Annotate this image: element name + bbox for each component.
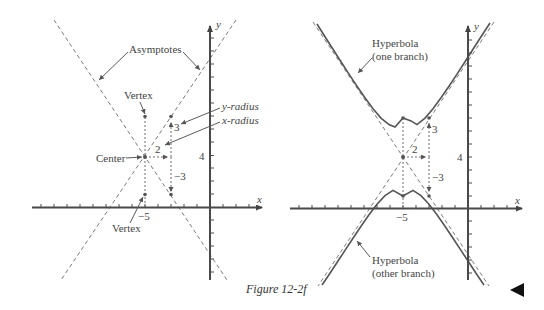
x-tick-label: −5 xyxy=(396,211,408,223)
vertex-top-point xyxy=(401,116,405,120)
right-panel: y x −5 4 Hyperbola (one branch) Hyperbol… xyxy=(290,20,522,286)
corner-point-bottom xyxy=(427,194,431,198)
asymptotes-leader-right xyxy=(183,52,200,70)
corner-point-top xyxy=(169,115,173,119)
value-down-label: −3 xyxy=(432,171,444,183)
value-up-label: 3 xyxy=(432,123,438,135)
y-axis-label: y xyxy=(473,20,479,32)
other-branch-label-line1: Hyperbola xyxy=(372,254,419,266)
vertex-top-point xyxy=(143,115,147,119)
one-branch-label-line1: Hyperbola xyxy=(372,37,419,49)
y-tick-label: 4 xyxy=(199,150,205,162)
value-down-label: −3 xyxy=(174,170,186,182)
left-panel: y x −5 4 Asymptotes Vertex Center Vertex… xyxy=(32,18,262,280)
other-branch-label-line2: (other branch) xyxy=(372,267,435,280)
figure-caption: Figure 12-2f xyxy=(246,282,307,297)
x-radius-label: x-radius xyxy=(221,114,259,126)
value-up-label: 3 xyxy=(174,121,180,133)
vertex-top-label: Vertex xyxy=(124,89,153,101)
corner-point-top xyxy=(427,116,431,120)
vertex-bottom-point xyxy=(401,194,405,198)
center-point xyxy=(143,155,147,159)
center-leader xyxy=(126,157,142,158)
x-tick-label: −5 xyxy=(138,210,150,222)
one-branch-label-line2: (one branch) xyxy=(372,50,428,63)
vertex-top-leader xyxy=(140,102,145,114)
other-branch-leader xyxy=(357,241,370,257)
vertex-bottom-label: Vertex xyxy=(112,222,141,234)
center-point xyxy=(401,155,405,159)
y-axis-label: y xyxy=(215,18,221,30)
y-tick-label: 4 xyxy=(457,151,463,163)
asymptotes-leader-left xyxy=(99,52,128,80)
asymptotes-label: Asymptotes xyxy=(129,43,182,55)
corner-point-bottom xyxy=(169,193,173,197)
center-label: Center xyxy=(96,152,126,164)
y-radius-label: y-radius xyxy=(221,100,259,112)
triangle-left-icon[interactable] xyxy=(510,283,524,297)
one-branch-leader xyxy=(358,58,372,73)
value-right-label: 2 xyxy=(412,143,418,155)
value-right-label: 2 xyxy=(155,143,161,155)
x-axis-label: x xyxy=(256,193,262,205)
vertex-bottom-point xyxy=(143,193,147,197)
y-radius-leader xyxy=(181,108,220,124)
figure-canvas: y x −5 4 Asymptotes Vertex Center Vertex… xyxy=(0,0,544,310)
x-axis-label: x xyxy=(514,194,520,206)
